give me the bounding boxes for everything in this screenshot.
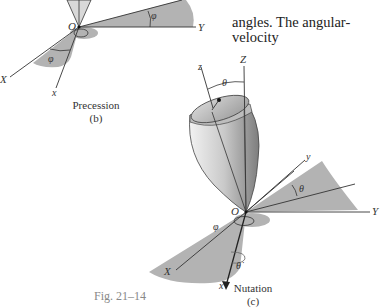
phi-label-bottom-b: φ [48, 53, 54, 64]
nutation-title: Nutation [228, 282, 278, 295]
nutation-caption: Nutation (c) [228, 282, 278, 308]
Z-axis-label-c: Z [240, 53, 246, 65]
phi-label-c: φ [213, 221, 219, 232]
theta-label-right-c: θ [299, 183, 304, 194]
X-axis-label-c: X [164, 265, 171, 277]
x-axis-label-c: x [219, 280, 223, 291]
precession-diagram [10, 0, 196, 88]
precession-sub: (b) [68, 112, 124, 125]
precession-caption: Precession (b) [68, 99, 124, 125]
body-text-line-2: angles. The angular-velocity [232, 15, 383, 45]
phi-label-top-b: φ [151, 10, 157, 21]
nutation-diagram [149, 66, 370, 290]
theta-label-top-c: θ [222, 77, 227, 88]
figure-label: Fig. 21–14 [94, 289, 146, 304]
Y-axis-label-c: Y [372, 205, 378, 217]
nutation-sub: (c) [228, 295, 278, 308]
X-axis-label-b: X [0, 73, 7, 85]
theta-dot-label-c: θ̇ [236, 260, 241, 271]
origin-label-b: O [68, 20, 76, 32]
precession-title: Precession [68, 99, 124, 112]
x-axis-label-b: x [52, 87, 56, 98]
z-axis-label-c: z [198, 61, 202, 72]
y-axis-label-c: y [306, 151, 310, 162]
body-text: y angles. The angular-velocity [232, 0, 383, 45]
Y-axis-label-b: Y [198, 21, 204, 33]
origin-label-c: O [231, 205, 239, 217]
